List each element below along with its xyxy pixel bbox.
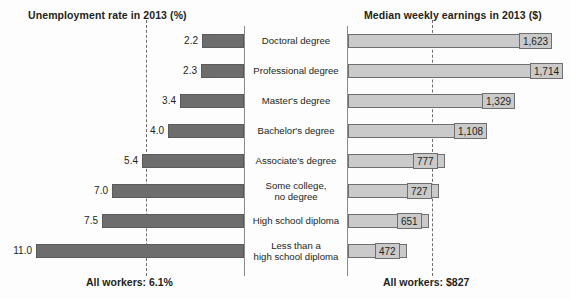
education-earnings-chart: Unemployment rate in 2013 (%) Median wee…: [0, 0, 570, 299]
earnings-value-label: 777: [413, 153, 438, 169]
chart-row: 4.0Bachelor's degree1,108: [0, 116, 570, 146]
right-axis-title: Median weekly earnings in 2013 ($): [364, 9, 542, 21]
unemployment-bar: [202, 34, 244, 48]
chart-row: 7.5High school diploma651: [0, 206, 570, 236]
unemployment-bar: [142, 154, 244, 168]
unemployment-value-label: 5.4: [98, 153, 138, 168]
category-label-text: Doctoral degree: [262, 35, 330, 47]
unemployment-bar: [168, 124, 244, 138]
unemployment-bar: [36, 244, 244, 258]
category-label: Less than ahigh school diploma: [246, 236, 346, 266]
unemployment-bar: [102, 214, 244, 228]
earnings-value-label: 1,623: [519, 33, 552, 49]
unemployment-value-label: 11.0: [0, 243, 32, 258]
chart-row: 2.2Doctoral degree1,623: [0, 26, 570, 56]
category-label: High school diploma: [246, 206, 346, 236]
all-workers-unemployment-footnote: All workers: 6.1%: [86, 276, 173, 288]
unemployment-value-label: 3.4: [136, 93, 176, 108]
earnings-value-label: 1,714: [530, 63, 563, 79]
category-label-text: Professional degree: [253, 65, 338, 77]
unemployment-value-label: 2.2: [158, 33, 198, 48]
chart-row: 5.4Associate's degree777: [0, 146, 570, 176]
unemployment-bar: [201, 64, 244, 78]
category-label: Professional degree: [246, 56, 346, 86]
chart-row: 11.0Less than ahigh school diploma472: [0, 236, 570, 266]
category-label-text: Master's degree: [262, 95, 331, 107]
category-label: Bachelor's degree: [246, 116, 346, 146]
chart-row: 2.3Professional degree1,714: [0, 56, 570, 86]
unemployment-value-label: 7.5: [58, 213, 98, 228]
earnings-value-label: 472: [375, 243, 400, 259]
earnings-value-label: 727: [407, 183, 432, 199]
unemployment-value-label: 4.0: [124, 123, 164, 138]
category-label-text: Associate's degree: [256, 155, 337, 167]
unemployment-value-label: 2.3: [157, 63, 197, 78]
category-label-text: Less than ahigh school diploma: [254, 240, 339, 263]
unemployment-value-label: 7.0: [68, 183, 108, 198]
category-label: Doctoral degree: [246, 26, 346, 56]
earnings-value-label: 1,329: [482, 93, 515, 109]
all-workers-earnings-footnote: All workers: $827: [383, 276, 469, 288]
earnings-value-label: 1,108: [454, 123, 487, 139]
chart-row: 7.0Some college,no degree727: [0, 176, 570, 206]
category-label-text: Some college,no degree: [266, 180, 327, 203]
category-label: Associate's degree: [246, 146, 346, 176]
unemployment-bar: [112, 184, 244, 198]
chart-row: 3.4Master's degree1,329: [0, 86, 570, 116]
unemployment-bar: [180, 94, 244, 108]
category-label-text: Bachelor's degree: [257, 125, 334, 137]
category-label: Some college,no degree: [246, 176, 346, 206]
category-label-text: High school diploma: [253, 215, 339, 227]
left-axis-title: Unemployment rate in 2013 (%): [28, 9, 187, 21]
category-label: Master's degree: [246, 86, 346, 116]
earnings-value-label: 651: [397, 213, 422, 229]
